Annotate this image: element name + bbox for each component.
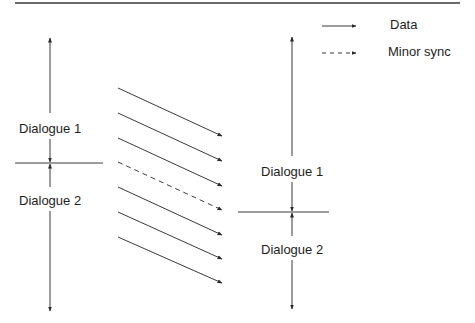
data-arrow-4 xyxy=(118,187,222,235)
data-arrow-6 xyxy=(118,237,222,283)
data-arrow-2 xyxy=(118,138,222,186)
messages-layer xyxy=(118,88,222,283)
legend-layer xyxy=(322,26,356,53)
legend-data-label: Data xyxy=(390,18,417,31)
legend-minor-sync-label: Minor sync xyxy=(388,45,451,58)
left-dialogue-1-label: Dialogue 1 xyxy=(17,121,83,136)
minor-sync-arrow-3 xyxy=(118,162,222,210)
left-dialogue-2-label: Dialogue 2 xyxy=(17,193,83,208)
right-dialogue-2-label: Dialogue 2 xyxy=(259,242,325,257)
right-dialogue-1-label: Dialogue 1 xyxy=(259,164,325,179)
data-arrow-1 xyxy=(118,113,222,161)
data-arrow-5 xyxy=(118,212,222,259)
data-arrow-0 xyxy=(118,88,222,136)
